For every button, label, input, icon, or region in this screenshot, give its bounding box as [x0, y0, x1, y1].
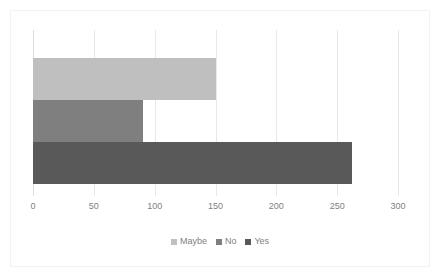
legend-label: No: [225, 236, 237, 247]
x-tick-label-200: 200: [269, 200, 284, 212]
x-tick-label-250: 250: [330, 200, 345, 212]
legend-label: Yes: [254, 236, 269, 247]
x-tick-label-0: 0: [30, 200, 35, 212]
bar-no[interactable]: [33, 100, 143, 142]
bar-yes[interactable]: [33, 142, 352, 184]
x-tick-label-150: 150: [208, 200, 223, 212]
bar-maybe[interactable]: [33, 58, 216, 100]
legend-swatch-icon: [216, 239, 222, 245]
legend-label: Maybe: [180, 236, 207, 247]
legend-item-maybe[interactable]: Maybe: [171, 236, 207, 247]
legend-swatch-icon: [171, 239, 177, 245]
gridline-300: [398, 30, 399, 196]
x-tick-label-100: 100: [147, 200, 162, 212]
x-axis: 050100150200250300: [0, 200, 440, 218]
x-tick-label-300: 300: [390, 200, 405, 212]
legend-item-yes[interactable]: Yes: [245, 236, 269, 247]
legend-item-no[interactable]: No: [216, 236, 237, 247]
x-tick-label-50: 50: [89, 200, 99, 212]
legend-swatch-icon: [245, 239, 251, 245]
plot-area: [33, 30, 398, 196]
chart-container: 050100150200250300 MaybeNoYes: [0, 0, 440, 277]
chart-legend: MaybeNoYes: [0, 236, 440, 247]
